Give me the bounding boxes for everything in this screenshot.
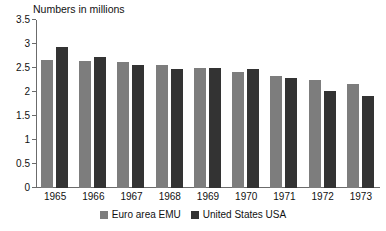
y-axis-tick: 0.5: [0, 158, 36, 170]
x-axis-label: 1966: [74, 190, 112, 203]
bar[interactable]: [309, 80, 321, 188]
x-axis-label: 1967: [112, 190, 150, 203]
x-axis-label: 1965: [36, 190, 74, 203]
x-axis-label: 1972: [304, 190, 342, 203]
legend-item[interactable]: Euro area EMU: [100, 209, 181, 221]
bar[interactable]: [156, 65, 168, 188]
x-axis-label: 1971: [265, 190, 303, 203]
y-axis-tick-label: 0.5: [16, 158, 30, 170]
bar-group: [154, 20, 192, 188]
bar[interactable]: [247, 69, 259, 188]
y-axis-tick-label: 0: [24, 182, 30, 194]
y-axis-tick: 3: [0, 38, 36, 50]
x-axis-labels: 196519661967196819691970197119721973: [36, 190, 380, 204]
bar[interactable]: [94, 57, 106, 188]
bar-group: [268, 20, 306, 188]
bar[interactable]: [209, 68, 221, 188]
x-axis-label: 1970: [227, 190, 265, 203]
bars-layer: [36, 20, 380, 188]
x-axis-label: 1969: [189, 190, 227, 203]
bar[interactable]: [285, 78, 297, 188]
bar[interactable]: [56, 47, 68, 188]
bar[interactable]: [347, 84, 359, 188]
bar[interactable]: [79, 61, 91, 188]
y-axis-tick: 1.5: [0, 110, 36, 122]
legend-item[interactable]: United States USA: [191, 209, 286, 221]
bar[interactable]: [270, 76, 282, 188]
bar[interactable]: [117, 62, 129, 188]
bar[interactable]: [324, 91, 336, 188]
y-axis-tick-label: 3: [24, 38, 30, 50]
bar-group: [77, 20, 115, 188]
y-axis-tick: 1: [0, 134, 36, 146]
y-axis-tick: 2.5: [0, 62, 36, 74]
y-axis-tick: 0: [0, 182, 36, 194]
bar[interactable]: [194, 68, 206, 188]
bar[interactable]: [41, 60, 53, 188]
chart-title: Numbers in millions: [33, 3, 125, 15]
x-axis-label: 1968: [151, 190, 189, 203]
y-axis-tick: 3.5: [0, 14, 36, 26]
legend-swatch-icon: [191, 211, 199, 219]
bar[interactable]: [132, 65, 144, 188]
legend-label: United States USA: [203, 209, 286, 221]
x-axis-label: 1973: [342, 190, 380, 203]
y-axis-tick-label: 3.5: [16, 14, 30, 26]
y-axis-tick: 2: [0, 86, 36, 98]
legend-label: Euro area EMU: [112, 209, 181, 221]
y-axis-tick-label: 2.5: [16, 62, 30, 74]
bar-chart: Numbers in millions 00.511.522.533.5 196…: [0, 0, 386, 231]
y-axis-tick-label: 2: [24, 86, 30, 98]
bar[interactable]: [232, 72, 244, 188]
chart-legend: Euro area EMUUnited States USA: [0, 209, 386, 221]
y-axis-tick-label: 1.5: [16, 110, 30, 122]
y-axis-tick-label: 1: [24, 134, 30, 146]
bar-group: [39, 20, 77, 188]
bar-group: [345, 20, 383, 188]
bar[interactable]: [171, 69, 183, 188]
bar-group: [115, 20, 153, 188]
bar-group: [307, 20, 345, 188]
bar-group: [192, 20, 230, 188]
legend-swatch-icon: [100, 211, 108, 219]
bar[interactable]: [362, 96, 374, 188]
bar-group: [230, 20, 268, 188]
